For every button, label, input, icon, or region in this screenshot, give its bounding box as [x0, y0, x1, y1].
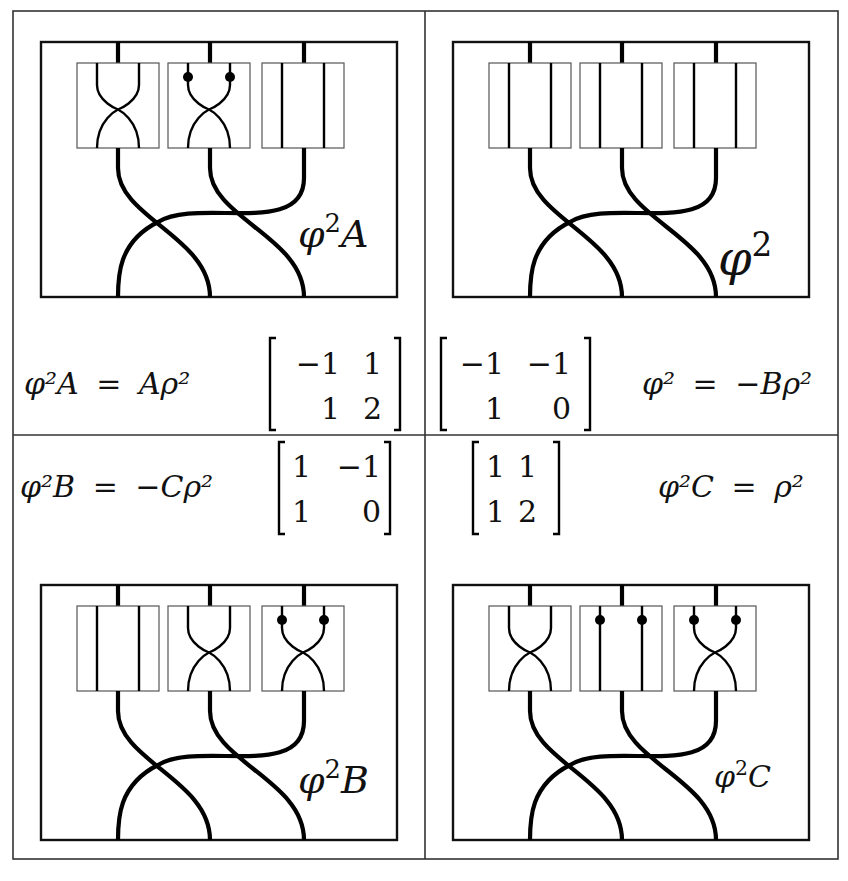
matrix-cell: 1	[292, 494, 311, 529]
braid-box-straight-dots	[580, 606, 662, 691]
equation-phi2B: φ²B = −Cρ²	[20, 469, 213, 504]
dot-icon	[637, 615, 647, 625]
strand	[210, 691, 304, 840]
matrix-cell: 1	[363, 346, 382, 381]
braid-box-straight	[674, 63, 756, 148]
braid-box-cross	[168, 606, 250, 691]
matrix-cell: 1	[518, 449, 537, 484]
braid-box-cross-dots	[168, 63, 250, 148]
panel-label: φ2	[718, 226, 772, 286]
matrix-cell: −1	[337, 449, 381, 484]
strand	[622, 148, 716, 297]
matrix-phi2B: 1 −1 1 0	[279, 442, 390, 534]
matrix-phi2: −1 −1 1 0	[441, 338, 590, 430]
matrix-cell: 1	[292, 449, 311, 484]
dot-icon	[731, 615, 741, 625]
equation-phi2A: φ²A = Aρ²	[24, 366, 190, 401]
strand	[118, 148, 210, 297]
matrix-cell: 1	[321, 391, 340, 426]
strand	[530, 148, 622, 297]
dot-icon	[225, 72, 235, 82]
panel-label: φ2C	[714, 756, 771, 794]
matrix-cell: −1	[296, 346, 340, 381]
braid-box-cross-dots	[262, 606, 344, 691]
matrix-cell: 1	[485, 391, 504, 426]
dot-icon	[277, 615, 287, 625]
strand	[530, 691, 622, 840]
panel-label: φ2B	[298, 754, 369, 802]
matrix-cell: 1	[486, 449, 505, 484]
braid-box-straight	[580, 63, 662, 148]
panel-phi2C: φ2C	[453, 585, 809, 840]
matrix-cell: 0	[552, 391, 571, 426]
braid-box-cross	[489, 606, 571, 691]
equation-phi2C: φ²C = ρ²	[658, 469, 804, 504]
matrix-cell: −1	[527, 346, 571, 381]
panel-label: φ2A	[298, 208, 369, 256]
matrix-cell: 2	[518, 494, 537, 529]
strand	[622, 691, 716, 840]
panel-phi2A: φ2A	[41, 42, 397, 297]
braid-box-cross-dots	[674, 606, 756, 691]
matrix-cell: 2	[363, 391, 382, 426]
panel-phi2B: φ2B	[41, 585, 397, 840]
strand	[118, 691, 210, 840]
braid-box-cross	[77, 63, 159, 148]
braid-box-straight	[77, 606, 159, 691]
matrix-cell: 1	[486, 494, 505, 529]
equation-phi2: φ² = −Bρ²	[642, 366, 812, 401]
matrix-cell: 0	[362, 494, 381, 529]
dot-icon	[319, 615, 329, 625]
strand	[210, 148, 304, 297]
matrix-cell: −1	[460, 346, 504, 381]
braid-box-straight	[489, 63, 571, 148]
dot-icon	[183, 72, 193, 82]
matrix-phi2C: 1 1 1 2	[473, 442, 559, 534]
braid-figure: φ2Aφ2φ2Bφ2C φ²A = Aρ² φ² = −Bρ² φ²B = −C…	[0, 0, 848, 881]
panel-phi2: φ2	[453, 42, 809, 297]
matrix-phi2A: −1 1 1 2	[270, 338, 400, 430]
dot-icon	[689, 615, 699, 625]
braid-box-straight	[262, 63, 344, 148]
dot-icon	[595, 615, 605, 625]
